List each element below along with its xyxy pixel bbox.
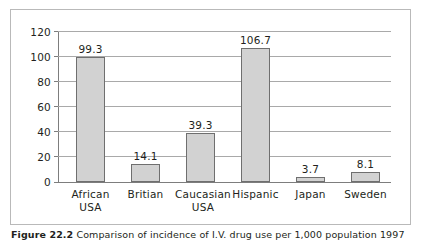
figure-caption-text: Comparison of incidence of I.V. drug use… bbox=[76, 229, 404, 240]
bar-value-hispanic: 106.7 bbox=[231, 35, 280, 46]
y-axis-label-0: 0 bbox=[44, 177, 51, 188]
gridline-40 bbox=[58, 131, 391, 132]
bar-value-japan: 3.7 bbox=[286, 164, 335, 175]
gridline-80 bbox=[58, 81, 391, 82]
bar-value-britian: 14.1 bbox=[121, 151, 170, 162]
y-axis-label-80: 80 bbox=[37, 77, 51, 88]
bar-value-caucasian-usa: 39.3 bbox=[176, 120, 225, 131]
gridline-120 bbox=[58, 31, 391, 32]
figure-caption: Figure 22.2 Comparison of incidence of I… bbox=[11, 229, 416, 240]
plot-area: 99.3 14.1 39.3 106.7 3.7 8.1 bbox=[58, 31, 391, 182]
y-axis-label-40: 40 bbox=[37, 127, 51, 138]
bar-african-usa[interactable] bbox=[76, 57, 105, 182]
bar-caucasian-usa[interactable] bbox=[186, 133, 215, 182]
bar-value-african-usa: 99.3 bbox=[66, 44, 115, 55]
chart-frame: 120 100 80 60 40 20 0 bbox=[10, 9, 411, 225]
y-axis-label-100: 100 bbox=[30, 52, 51, 63]
x-label-sweden-line1: Sweden bbox=[333, 188, 398, 201]
y-axis-label-120: 120 bbox=[30, 27, 51, 38]
figure-caption-label: Figure 22.2 bbox=[11, 229, 73, 240]
y-axis-label-20: 20 bbox=[37, 152, 51, 163]
gridline-20 bbox=[58, 156, 391, 157]
bar-japan[interactable] bbox=[296, 177, 325, 182]
x-axis-labels: African USA Britian Caucasian USA Hispan… bbox=[58, 188, 391, 224]
bar-value-sweden: 8.1 bbox=[341, 159, 390, 170]
y-axis-label-60: 60 bbox=[37, 102, 51, 113]
gridline-0-baseline bbox=[58, 182, 391, 183]
x-label-caucasian-usa-line2: USA bbox=[166, 201, 240, 214]
x-label-sweden: Sweden bbox=[333, 188, 398, 201]
gridline-60 bbox=[58, 106, 391, 107]
bar-hispanic[interactable] bbox=[241, 48, 270, 182]
figure-panel: 120 100 80 60 40 20 0 bbox=[0, 0, 422, 240]
bar-sweden[interactable] bbox=[351, 172, 380, 182]
gridline-100 bbox=[58, 56, 391, 57]
x-label-african-usa-line2: USA bbox=[58, 201, 123, 214]
bar-britian[interactable] bbox=[131, 164, 160, 182]
